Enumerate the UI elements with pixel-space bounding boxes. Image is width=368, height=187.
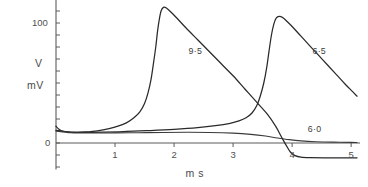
x-axis-title: m s [185, 168, 203, 179]
y-tick-label-100: 100 [32, 18, 48, 28]
y-axis-title-mv: mV [27, 80, 44, 91]
y-axis-title-v: V [35, 58, 43, 69]
y-axis-ticks [56, 0, 60, 167]
x-tick-label-3: 3 [230, 150, 235, 160]
x-tick-label-2: 2 [171, 150, 176, 160]
curve-line-6-5 [56, 16, 357, 132]
x-axis-ticks [115, 143, 351, 147]
y-tick-label-0: 0 [45, 138, 50, 148]
x-tick-label-1: 1 [112, 150, 117, 160]
curve-annotation-6-5: 6·5 [312, 47, 326, 56]
x-tick-label-5: 5 [348, 150, 353, 160]
x-tick-label-4: 4 [289, 150, 294, 160]
curve-line-9-5 [56, 7, 357, 158]
curve-annotation-6-0: 6·0 [308, 125, 322, 134]
curve-annotation-9-5: 9·5 [188, 47, 202, 56]
chart-plot-area [0, 0, 368, 187]
figure-container: 100 0 V mV 1 2 3 4 5 m s 9·5 6·5 6·0 [0, 0, 368, 187]
axes-group [56, 0, 360, 169]
data-curves-group [56, 7, 357, 158]
